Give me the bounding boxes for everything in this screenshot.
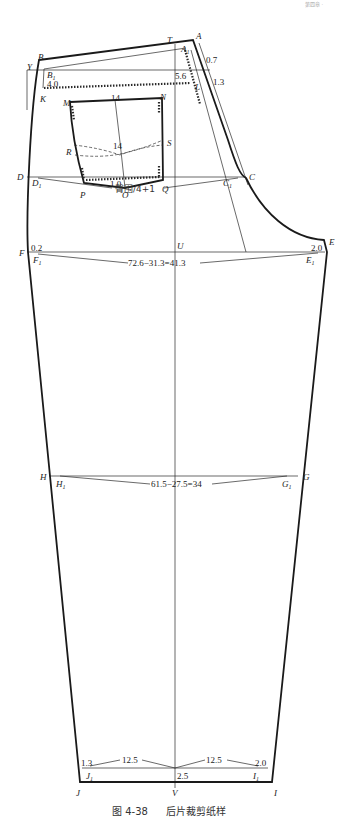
dim-hem-right-half: 12.5	[206, 755, 222, 765]
dim-knee-formula: 61.5−27.5=34	[151, 479, 202, 489]
pocket-stitch-m	[72, 106, 74, 120]
label-L: L	[194, 82, 200, 92]
hem-measure-left-b	[142, 760, 175, 768]
dim-hem-right-in: 2.0	[255, 758, 267, 768]
label-D: D	[16, 172, 24, 182]
label-C1: C1	[223, 178, 232, 189]
side-stitch-line	[185, 50, 200, 104]
label-J1: J1	[86, 771, 93, 782]
label-G1: G1	[282, 479, 292, 490]
hem-measure-left-a	[90, 760, 120, 766]
dim-yoke-depth-side: 4.0	[47, 79, 59, 89]
yoke-stitch-line	[44, 83, 190, 88]
label-N: N	[159, 92, 167, 102]
dim-waist-offset: 0.7	[206, 55, 218, 65]
dim-thigh-formula: 72.6−31.3=41.3	[128, 258, 186, 268]
label-M: M	[62, 98, 71, 108]
dim-crotch-in: 0.2	[31, 243, 42, 253]
point-labels: A T A1 B Y B1 K L M N R S P O Q D D1 C C…	[16, 31, 335, 798]
label-K: K	[39, 94, 47, 104]
label-P: P	[79, 190, 86, 200]
pocket-center-line-top	[115, 100, 120, 142]
label-F: F	[18, 248, 25, 258]
label-I1: I1	[252, 771, 259, 782]
pocket-stitch-bottom	[86, 177, 160, 180]
label-R: R	[65, 147, 72, 157]
label-A: A	[195, 31, 202, 41]
back-pant-pattern-diagram: 第四章 ·	[0, 0, 350, 840]
dim-yoke-depth-center: 5.6	[175, 71, 187, 81]
hip-measure-left	[38, 178, 112, 188]
label-D1: D1	[31, 178, 42, 189]
label-Q: Q	[162, 184, 169, 194]
label-H: H	[39, 472, 47, 482]
label-G: G	[303, 472, 310, 482]
figure-caption: 图 4-38 后片裁剪纸样	[112, 805, 226, 817]
dim-pocket-width-top: 14	[111, 93, 121, 103]
dim-hem-left-half: 12.5	[122, 755, 138, 765]
waistband-inner-line	[44, 48, 186, 69]
label-E: E	[328, 237, 335, 247]
label-E1: E1	[305, 255, 315, 266]
b1-k-line	[43, 69, 44, 88]
label-U: U	[177, 241, 184, 251]
label-J: J	[76, 788, 81, 798]
label-F1: F1	[32, 255, 42, 266]
label-I: I	[273, 788, 278, 798]
label-A1: A1	[180, 44, 190, 55]
dim-crotch-ext: 2.0	[311, 243, 323, 253]
label-S: S	[167, 138, 172, 148]
figure-title: 后片裁剪纸样	[166, 805, 226, 817]
pattern-outline	[27, 40, 327, 782]
knee-measure-left	[60, 476, 150, 484]
thigh-measure-right	[200, 253, 318, 263]
hem-measure-right-a	[175, 760, 205, 768]
dim-hem-left-in: 1.3	[81, 758, 93, 768]
label-H1: H1	[55, 479, 66, 490]
label-B: B	[38, 52, 44, 62]
label-Y: Y	[27, 62, 33, 72]
dim-yoke-offset: 1.3	[213, 77, 225, 87]
dimension-labels: 0.7 1.3 4.0 5.6 14 14 1.0 臀围/4+1 0.2 2.0…	[31, 55, 323, 781]
dim-hip-formula: 臀围/4+1	[115, 184, 155, 194]
thigh-measure-left	[38, 254, 128, 263]
figure-number: 图 4-38	[112, 806, 148, 817]
hem-measure-right-b	[227, 760, 258, 766]
label-C: C	[249, 172, 256, 182]
knee-measure-right	[212, 476, 287, 484]
construction-lines	[27, 43, 325, 788]
dim-pocket-width-mid: 14	[113, 141, 123, 151]
dim-hem-center-drop: 2.5	[177, 771, 189, 781]
page-header-text: 第四章 ·	[305, 1, 324, 8]
label-V: V	[172, 788, 179, 798]
